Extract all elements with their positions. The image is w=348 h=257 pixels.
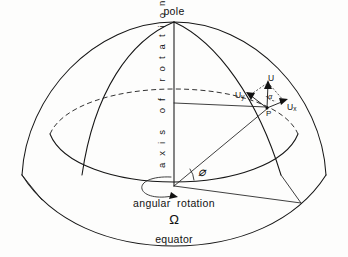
- label-axis-of-rotation: a x i s o f r o t a t i o n: [157, 0, 167, 168]
- label-vector-ux-subscript: x: [293, 105, 296, 112]
- meridian-right: [174, 22, 281, 175]
- label-vector-u: U: [268, 74, 274, 83]
- rotation-arrow-curve: [142, 177, 172, 197]
- label-vector-uy-subscript: y: [241, 93, 244, 100]
- label-angular-rotation: angular rotation: [0, 198, 348, 209]
- label-vector-uy: Uy: [235, 91, 244, 101]
- label-omega-symbol: Ω: [0, 213, 348, 226]
- label-point-p: P: [266, 110, 271, 118]
- label-phi-angle: ⌀: [198, 166, 206, 179]
- figure-container: pole a x i s o f r o t a t i o n ⌀ angul…: [0, 0, 348, 257]
- label-alpha-angle: α: [268, 93, 272, 101]
- rim-connector-left: [22, 175, 42, 200]
- label-equator: equator: [0, 234, 348, 245]
- label-pole: pole: [0, 6, 348, 17]
- label-vector-ux: Ux: [287, 103, 296, 113]
- radius-to-point-p: [174, 108, 268, 186]
